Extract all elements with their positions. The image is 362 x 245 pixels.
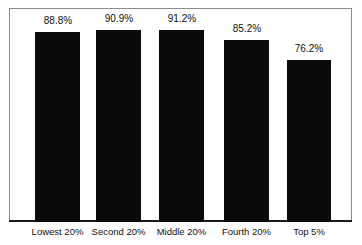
category-label: Fourth 20% (211, 226, 283, 237)
bar-value-label: 76.2% (273, 43, 345, 54)
bar (159, 30, 204, 222)
category-label: Top 5% (273, 226, 345, 237)
category-label: Second 20% (83, 226, 155, 237)
bar-value-label: 91.2% (146, 13, 218, 24)
bar (224, 40, 269, 222)
bar (287, 60, 331, 222)
bar-chart: 88.8%Lowest 20%90.9%Second 20%91.2%Middl… (0, 0, 362, 245)
bars-layer: 88.8%Lowest 20%90.9%Second 20%91.2%Middl… (0, 0, 362, 245)
bar-value-label: 85.2% (211, 23, 283, 34)
bar-value-label: 90.9% (83, 13, 155, 24)
category-label: Middle 20% (146, 226, 218, 237)
bar (96, 30, 141, 222)
bar (35, 32, 80, 222)
